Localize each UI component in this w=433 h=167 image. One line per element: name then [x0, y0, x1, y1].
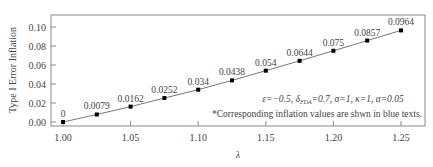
data-point-marker — [162, 96, 166, 100]
y-axis-title: Type I Error Inflation — [7, 27, 18, 113]
data-point-marker — [365, 39, 369, 43]
data-series: 00.00790.01620.02520.0340.04380.0540.064… — [61, 17, 415, 124]
x-tick-label: 1.20 — [325, 132, 343, 143]
y-tick-label: 0.10 — [29, 22, 47, 33]
parameter-annotation: ε=−0.5, δFDA=0.7, σ=1, κ=1, α=0.05 — [262, 94, 404, 105]
x-tick-label: 1.00 — [54, 132, 72, 143]
x-tick-label: 1.05 — [122, 132, 140, 143]
y-tick-label: 0.00 — [29, 117, 47, 128]
data-value-label: 0.054 — [255, 58, 277, 68]
data-point-marker — [196, 88, 200, 92]
y-axis: 0.000.020.040.060.080.10 — [29, 22, 57, 128]
data-point-marker — [230, 78, 234, 82]
data-point-marker — [129, 105, 133, 109]
y-tick-label: 0.04 — [29, 79, 47, 90]
data-value-label: 0.0079 — [84, 101, 110, 111]
data-value-label: 0.0438 — [219, 67, 245, 77]
y-tick-label: 0.06 — [29, 60, 47, 71]
data-value-label: 0.0644 — [287, 48, 313, 58]
data-point-marker — [95, 112, 99, 116]
data-point-marker — [331, 49, 335, 53]
y-tick-label: 0.08 — [29, 41, 47, 52]
footnote-annotation: *Corresponding inflation values are shwn… — [212, 109, 422, 119]
data-value-label: 0 — [61, 109, 66, 119]
data-value-label: 0.0857 — [354, 28, 380, 38]
x-axis: 1.001.051.101.151.201.25 — [54, 121, 410, 143]
data-point-marker — [399, 28, 403, 32]
x-tick-label: 1.15 — [257, 132, 275, 143]
data-value-label: 0.034 — [188, 77, 210, 87]
data-point-marker — [298, 59, 302, 63]
data-value-label: 0.0964 — [388, 17, 414, 27]
data-point-marker — [61, 120, 65, 124]
data-value-label: 0.0252 — [151, 85, 177, 95]
data-point-marker — [264, 69, 268, 73]
x-tick-label: 1.25 — [392, 132, 410, 143]
x-axis-title: λ — [235, 149, 241, 160]
x-tick-label: 1.10 — [189, 132, 207, 143]
type-i-error-chart: 0.000.020.040.060.080.10 1.001.051.101.1… — [0, 0, 433, 167]
y-tick-label: 0.02 — [29, 98, 47, 109]
data-value-label: 0.075 — [323, 38, 345, 48]
data-value-label: 0.0162 — [118, 94, 144, 104]
